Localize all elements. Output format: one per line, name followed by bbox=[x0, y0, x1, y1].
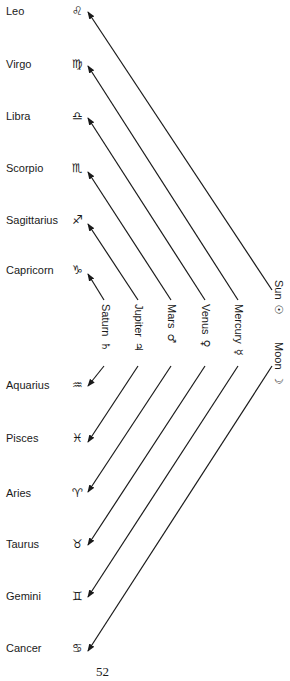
planet-jupiter: Jupiter♃ bbox=[132, 304, 145, 352]
virgo-icon: ♍ bbox=[72, 58, 83, 70]
jupiter-icon: ♃ bbox=[132, 342, 145, 352]
sign-pisces-label: Pisces bbox=[6, 432, 38, 444]
line-sun-leo bbox=[88, 12, 272, 290]
line-moon-cancer bbox=[88, 366, 272, 651]
planet-venus: Venus♀ bbox=[199, 304, 212, 348]
sign-virgo-label: Virgo bbox=[6, 58, 31, 70]
planet-saturn: Saturn♄ bbox=[99, 304, 112, 351]
line-saturn-aquarius bbox=[88, 366, 104, 386]
planet-moon: Moon☽ bbox=[272, 342, 285, 384]
sign-capricorn-label: Capricorn bbox=[6, 264, 54, 276]
pisces-icon: ♓ bbox=[72, 432, 83, 444]
sign-aquarius-label: Aquarius bbox=[6, 379, 49, 391]
line-mars-scorpio bbox=[88, 172, 171, 300]
planet-mercury: Mercury☿ bbox=[232, 304, 245, 356]
planet-jupiter-label: Jupiter bbox=[133, 304, 145, 337]
sign-gemini-label: Gemini bbox=[6, 590, 41, 602]
leo-icon: ♌ bbox=[72, 5, 83, 17]
mars-icon: ♂ bbox=[165, 333, 178, 343]
sign-scorpio-label: Scorpio bbox=[6, 162, 43, 174]
line-mercury-gemini bbox=[88, 366, 238, 597]
planet-mercury-label: Mercury bbox=[233, 304, 245, 344]
planet-venus-label: Venus bbox=[200, 304, 212, 335]
sign-cancer-label: Cancer bbox=[6, 642, 41, 654]
sign-aries-label: Aries bbox=[6, 487, 31, 499]
saturn-icon: ♄ bbox=[99, 341, 112, 351]
gemini-icon: ♊ bbox=[72, 590, 83, 602]
scorpio-icon: ♏ bbox=[72, 162, 83, 174]
planet-sun: Sun☉ bbox=[272, 280, 285, 314]
sun-icon: ☉ bbox=[272, 305, 285, 315]
sign-libra-label: Libra bbox=[6, 110, 30, 122]
planet-mars-label: Mars bbox=[166, 304, 178, 328]
planet-mars: Mars♂ bbox=[165, 304, 178, 343]
sign-sagittarius-label: Sagittarius bbox=[6, 214, 58, 226]
line-jupiter-sagittarius bbox=[88, 224, 138, 300]
page-number: 52 bbox=[96, 664, 109, 680]
venus-icon: ♀ bbox=[199, 340, 212, 348]
cancer-icon: ♋ bbox=[72, 642, 83, 654]
mercury-icon: ☿ bbox=[232, 349, 245, 356]
planet-sun-label: Sun bbox=[273, 280, 285, 300]
line-venus-taurus bbox=[88, 366, 205, 545]
rulership-lines bbox=[0, 0, 290, 681]
line-saturn-capricorn bbox=[88, 274, 104, 300]
planet-moon-label: Moon bbox=[273, 342, 285, 370]
line-mars-aries bbox=[88, 366, 171, 492]
capricorn-icon: ♑ bbox=[72, 264, 83, 276]
moon-icon: ☽ bbox=[272, 375, 285, 385]
sign-taurus-label: Taurus bbox=[6, 538, 39, 550]
aries-icon: ♈ bbox=[72, 487, 83, 499]
aquarius-icon: ♒ bbox=[72, 379, 83, 391]
line-mercury-virgo bbox=[88, 66, 238, 300]
taurus-icon: ♉ bbox=[72, 538, 83, 550]
sign-leo-label: Leo bbox=[6, 5, 24, 17]
libra-icon: ♎ bbox=[72, 110, 83, 122]
planet-saturn-label: Saturn bbox=[100, 304, 112, 336]
sagittarius-icon: ♐ bbox=[72, 214, 83, 226]
line-venus-libra bbox=[88, 118, 205, 300]
